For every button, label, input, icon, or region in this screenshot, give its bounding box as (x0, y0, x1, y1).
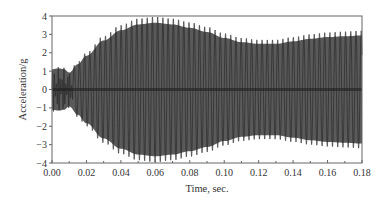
x-tick-label: 0.10 (215, 167, 233, 178)
y-tick-label: 2 (42, 47, 47, 58)
y-tick-label: 0 (42, 84, 47, 95)
x-tick-label: 0.18 (353, 167, 371, 178)
y-tick-label: 3 (42, 29, 47, 40)
x-tick-label: 0.16 (319, 167, 337, 178)
y-tick-label: −2 (36, 121, 47, 132)
x-tick-label: 0.14 (284, 167, 302, 178)
x-axis-label: Time, sec. (185, 183, 228, 194)
y-axis-ticks: −4−3−2−101234 (36, 11, 52, 169)
y-tick-label: −3 (36, 139, 47, 150)
y-axis-label: Acceleration/g (17, 58, 28, 121)
y-tick-label: 1 (42, 66, 47, 77)
x-tick-label: 0.12 (250, 167, 268, 178)
zero-band (52, 88, 362, 91)
x-tick-label: 0.06 (147, 167, 165, 178)
x-tick-label: 0.04 (112, 167, 130, 178)
acceleration-signal (52, 17, 362, 162)
x-tick-label: 0.00 (43, 167, 61, 178)
x-tick-label: 0.08 (181, 167, 199, 178)
y-tick-label: 4 (42, 11, 47, 22)
acceleration-chart: 0.000.020.040.060.080.100.120.140.160.18… (0, 0, 392, 203)
x-tick-label: 0.02 (78, 167, 96, 178)
y-tick-label: −4 (36, 158, 47, 169)
y-tick-label: −1 (36, 102, 47, 113)
